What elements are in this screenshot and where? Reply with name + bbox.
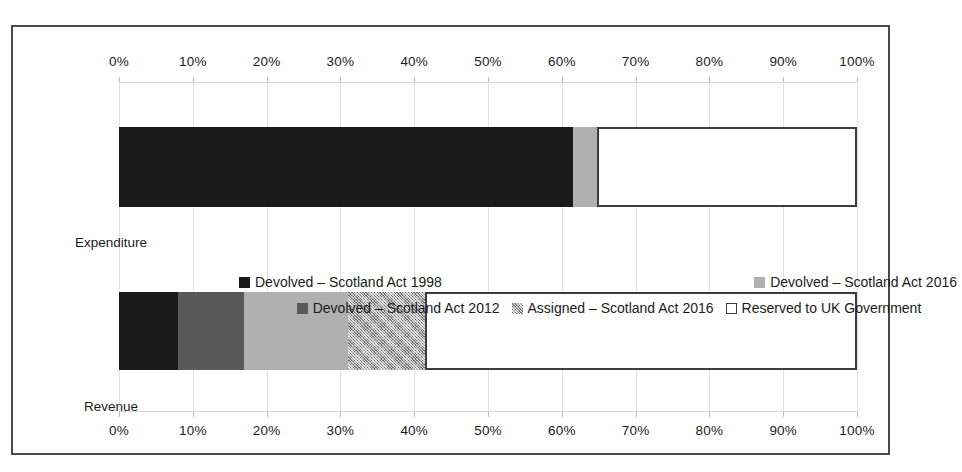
legend-item[interactable]: Devolved – Scotland Act 2016 — [754, 275, 957, 289]
x-tick-bottom-4: 40% — [400, 423, 428, 438]
x-axis-bottom-labels: 0%10%20%30%40%50%60%70%80%90%100% — [119, 423, 857, 443]
legend-item[interactable]: Assigned – Scotland Act 2016 — [512, 301, 714, 315]
x-tick-top-6: 60% — [548, 54, 576, 69]
x-tick-top-4: 40% — [400, 54, 428, 69]
x-tick-bottom-8: 80% — [696, 423, 724, 438]
tick-bottom-6 — [562, 412, 563, 417]
x-tick-bottom-10: 100% — [839, 423, 874, 438]
x-tick-top-9: 90% — [769, 54, 797, 69]
tick-top-6 — [562, 77, 563, 82]
x-tick-bottom-3: 30% — [327, 423, 355, 438]
bar-segment[interactable] — [597, 127, 857, 207]
tick-bottom-8 — [709, 412, 710, 417]
x-tick-top-8: 80% — [696, 54, 724, 69]
tick-bottom-9 — [783, 412, 784, 417]
legend: Devolved – Scotland Act 1998Devolved – S… — [225, 269, 962, 321]
x-tick-bottom-5: 50% — [474, 423, 502, 438]
bar-expenditure[interactable] — [119, 127, 857, 207]
plot-area: Expenditure Revenue Devolved – Scotland … — [119, 82, 857, 412]
x-tick-top-10: 100% — [839, 54, 874, 69]
x-axis-top-labels: 0%10%20%30%40%50%60%70%80%90%100% — [119, 54, 857, 74]
legend-swatch-icon — [754, 277, 765, 288]
tick-bottom-7 — [636, 412, 637, 417]
legend-item[interactable]: Reserved to UK Government — [726, 301, 922, 315]
bar-segment[interactable] — [119, 127, 573, 207]
tick-top-10 — [857, 77, 858, 82]
x-tick-bottom-1: 10% — [179, 423, 207, 438]
x-tick-top-7: 70% — [622, 54, 650, 69]
chart-frame: 0%10%20%30%40%50%60%70%80%90%100% Expend… — [11, 25, 890, 455]
bar-segment[interactable] — [119, 292, 178, 370]
legend-row-top: Devolved – Scotland Act 1998Devolved – S… — [225, 269, 962, 295]
tick-bottom-2 — [267, 412, 268, 417]
legend-label: Reserved to UK Government — [742, 301, 922, 315]
tick-top-4 — [414, 77, 415, 82]
x-tick-top-3: 30% — [327, 54, 355, 69]
x-tick-bottom-9: 90% — [769, 423, 797, 438]
tick-bottom-4 — [414, 412, 415, 417]
x-tick-bottom-0: 0% — [109, 423, 129, 438]
category-label-revenue: Revenue — [11, 399, 211, 414]
legend-label: Assigned – Scotland Act 2016 — [528, 301, 714, 315]
legend-label: Devolved – Scotland Act 2012 — [313, 301, 500, 315]
legend-label: Devolved – Scotland Act 1998 — [255, 275, 442, 289]
x-tick-top-5: 50% — [474, 54, 502, 69]
tick-top-9 — [783, 77, 784, 82]
x-tick-bottom-2: 20% — [253, 423, 281, 438]
x-tick-top-1: 10% — [179, 54, 207, 69]
tick-top-1 — [193, 77, 194, 82]
tick-bottom-5 — [488, 412, 489, 417]
bar-segment[interactable] — [573, 127, 597, 207]
tick-bottom-10 — [857, 412, 858, 417]
x-tick-bottom-7: 70% — [622, 423, 650, 438]
tick-top-3 — [340, 77, 341, 82]
tick-bottom-3 — [340, 412, 341, 417]
category-label-expenditure: Expenditure — [11, 235, 211, 250]
gridline-10 — [857, 82, 858, 412]
legend-swatch-icon — [512, 303, 523, 314]
x-tick-top-0: 0% — [109, 54, 129, 69]
x-tick-bottom-6: 60% — [548, 423, 576, 438]
legend-row-bottom: Devolved – Scotland Act 2012Assigned – S… — [225, 295, 962, 321]
tick-top-2 — [267, 77, 268, 82]
tick-top-7 — [636, 77, 637, 82]
tick-top-8 — [709, 77, 710, 82]
legend-swatch-icon — [726, 303, 737, 314]
tick-top-5 — [488, 77, 489, 82]
legend-swatch-icon — [239, 277, 250, 288]
legend-label: Devolved – Scotland Act 2016 — [770, 275, 957, 289]
legend-item[interactable]: Devolved – Scotland Act 2012 — [297, 301, 500, 315]
x-tick-top-2: 20% — [253, 54, 281, 69]
legend-item[interactable]: Devolved – Scotland Act 1998 — [239, 275, 442, 289]
legend-swatch-icon — [297, 303, 308, 314]
tick-top-0 — [119, 77, 120, 82]
